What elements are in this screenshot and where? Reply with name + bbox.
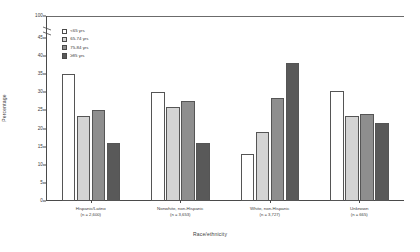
bar	[360, 114, 374, 201]
x-category-label: Hispanic/Latino(n = 2,600)	[46, 206, 136, 218]
bar	[181, 101, 195, 201]
bar	[151, 92, 165, 201]
x-category-label: Unknown(n = 665)	[314, 206, 404, 218]
x-category-count: (n = 2,600)	[46, 212, 136, 218]
x-category-name: Unknown	[350, 206, 368, 211]
y-axis-title: Percentage	[1, 94, 7, 122]
bar	[345, 116, 359, 201]
bar	[375, 123, 389, 201]
bar	[107, 143, 121, 201]
x-tick-mark	[180, 200, 181, 203]
x-category-name: Hispanic/Latino	[76, 206, 106, 211]
y-tick-label: 100	[35, 14, 43, 19]
x-category-count: (n = 665)	[314, 212, 404, 218]
x-category-label: Nonwhite, non-Hispanic(n = 3,653)	[135, 206, 225, 218]
bar	[241, 154, 255, 201]
bar	[77, 116, 91, 201]
chart-figure: 051015202530354045100 Percentage <65 yrs…	[0, 0, 420, 252]
x-category-name: Nonwhite, non-Hispanic	[157, 206, 203, 211]
bar	[196, 143, 210, 201]
x-category-count: (n = 3,727)	[225, 212, 315, 218]
x-category-name: White, non-Hispanic	[250, 206, 289, 211]
bars-container	[46, 16, 404, 201]
x-tick-mark	[91, 200, 92, 203]
x-tick-mark	[270, 200, 271, 203]
bar	[271, 98, 285, 201]
x-axis-title: Race/ethnicity	[0, 231, 420, 237]
bar	[166, 107, 180, 201]
x-tick-mark	[359, 200, 360, 203]
x-category-label: White, non-Hispanic(n = 3,727)	[225, 206, 315, 218]
bar	[62, 74, 76, 201]
bar	[330, 91, 344, 201]
bar	[286, 63, 300, 201]
bar	[92, 110, 106, 201]
bar	[256, 132, 270, 201]
x-category-count: (n = 3,653)	[135, 212, 225, 218]
